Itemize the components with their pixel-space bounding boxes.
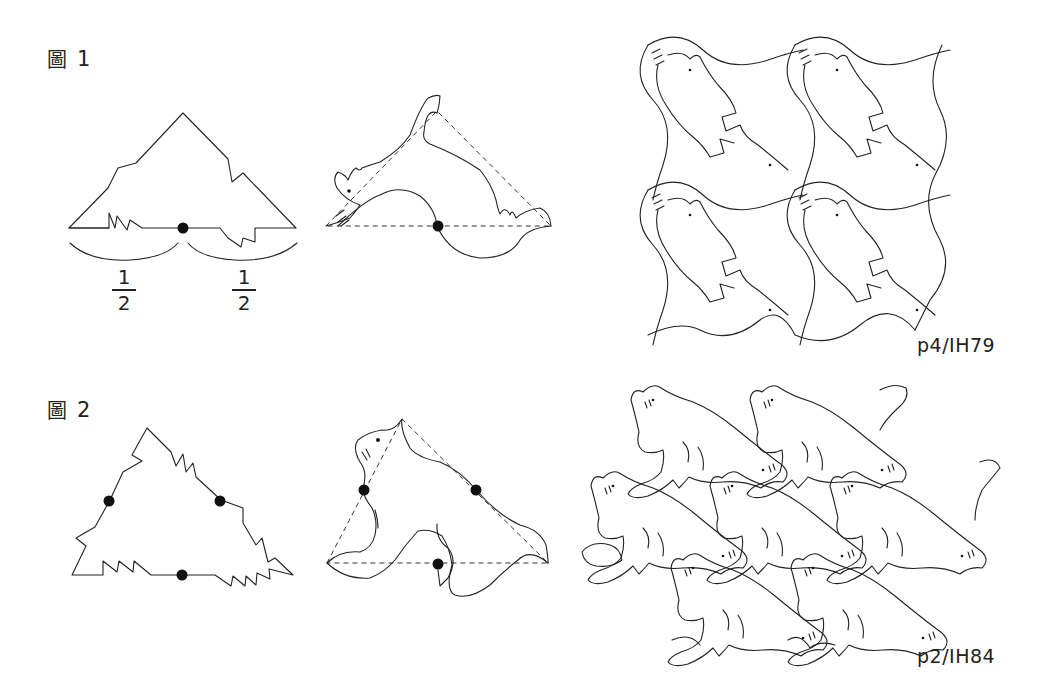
symmetry-code-fig2: p2/IH84 xyxy=(917,645,995,667)
figure-2-p2-tessellation xyxy=(0,0,1050,699)
